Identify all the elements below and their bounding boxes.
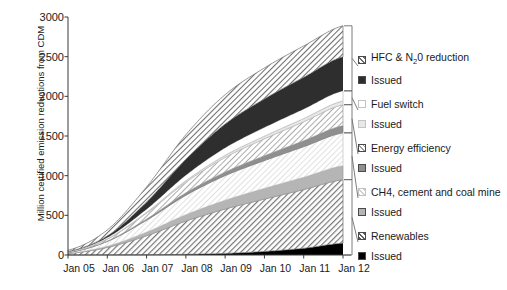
legend-item-energy-efficiency-issued[interactable]: Issued [358,160,402,176]
swatch-renewables-icon [358,232,366,240]
swatch-ch4-issued-icon [358,208,366,216]
legend-item-ch4-issued[interactable]: Issued [358,204,402,220]
legend-item-hfc-issued[interactable]: Issued [358,72,402,88]
legend-item-renewables-issued[interactable]: Issued [358,248,402,264]
legend-label-ch4: CH4, cement and coal mine [371,186,501,198]
legend-label-renewables: Renewables [371,230,429,242]
legend-label-hfc: HFC & N20 reduction [371,51,469,68]
swatch-energy-efficiency-icon [358,144,366,152]
stacked-bands [68,26,343,255]
swatch-renewables-issued-icon [358,252,366,260]
legend-connector [344,91,358,110]
legend-item-ch4[interactable]: CH4, cement and coal mine [358,184,501,200]
swatch-energy-efficiency-issued-icon [358,164,366,172]
swatch-hfc-icon [358,56,366,64]
legend-connector [344,105,358,154]
cdm-stacked-area-chart: Million certified emission reductions fr… [0,0,507,290]
legend-item-energy-efficiency[interactable]: Energy efficiency [358,140,451,156]
swatch-fuel-switch-issued-icon [358,120,366,128]
legend-label-renewables-issued: Issued [371,250,402,262]
legend-label-hfc-issued: Issued [371,74,402,86]
legend-label-fuel-switch: Fuel switch [371,98,424,110]
legend-connector-brackets [344,26,358,255]
legend-label-energy-efficiency: Energy efficiency [371,142,451,154]
legend-label-fuel-switch-issued: Issued [371,118,402,130]
legend: HFC & N20 reduction Issued Fuel switch I… [358,0,507,290]
swatch-ch4-icon [358,188,366,196]
legend-label-energy-efficiency-issued: Issued [371,162,402,174]
swatch-hfc-issued-icon [358,76,366,84]
legend-item-fuel-switch[interactable]: Fuel switch [358,96,424,112]
legend-item-fuel-switch-issued[interactable]: Issued [358,116,402,132]
legend-item-renewables[interactable]: Renewables [358,228,429,244]
swatch-fuel-switch-icon [358,100,366,108]
legend-label-ch4-issued: Issued [371,206,402,218]
legend-connector [344,26,358,91]
legend-connector [344,180,358,255]
legend-item-hfc[interactable]: HFC & N20 reduction [358,52,469,68]
